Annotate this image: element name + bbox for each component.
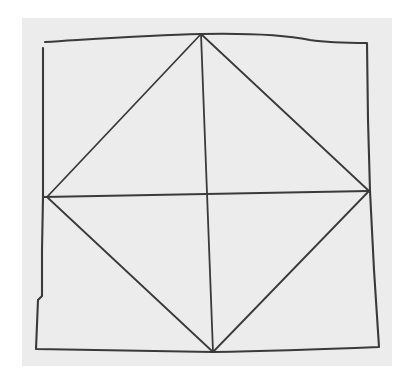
sketch-canvas xyxy=(0,0,407,387)
sketch-svg xyxy=(0,0,407,387)
